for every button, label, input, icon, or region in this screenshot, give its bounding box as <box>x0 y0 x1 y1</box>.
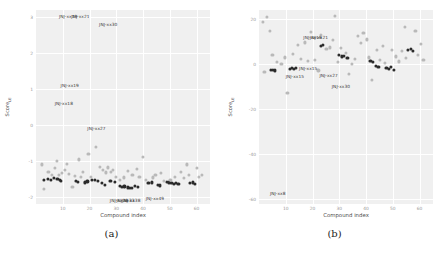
data-point <box>118 178 121 181</box>
grid-line-vertical <box>143 10 144 204</box>
data-point <box>377 65 380 68</box>
x-tick-label: 30 <box>114 206 120 211</box>
data-point <box>265 15 268 18</box>
x-tick-label: 10 <box>60 206 66 211</box>
data-point <box>42 187 45 190</box>
x-tick-label: 60 <box>417 206 423 211</box>
data-point <box>405 57 408 60</box>
data-point <box>322 44 325 47</box>
data-point <box>174 175 177 178</box>
grid-line-vertical <box>170 10 171 204</box>
data-point <box>42 178 45 181</box>
data-point <box>159 184 162 187</box>
y-tick-label: -40 <box>243 152 256 157</box>
data-point <box>356 35 359 38</box>
data-point <box>371 60 374 63</box>
data-point <box>303 41 306 44</box>
data-point <box>268 30 271 33</box>
data-point <box>286 91 289 94</box>
grid-line-vertical <box>339 10 340 204</box>
panel-a: 102030405060-2-10123JNJ-xx19JNJ-xx21JNJ-… <box>0 0 223 253</box>
data-point <box>292 52 295 55</box>
data-point <box>94 146 97 149</box>
data-point <box>112 169 115 172</box>
data-point <box>414 29 417 32</box>
y-tick-label: 0 <box>243 62 256 67</box>
data-point <box>71 185 74 188</box>
data-point <box>397 60 400 63</box>
caption-b: (b) <box>223 228 446 239</box>
data-point <box>262 20 265 23</box>
data-point <box>275 60 278 63</box>
x-tick-label: 20 <box>310 206 316 211</box>
data-point <box>344 51 347 54</box>
data-point <box>339 46 342 49</box>
data-point <box>381 44 384 47</box>
data-point <box>106 166 109 169</box>
data-point <box>365 38 368 41</box>
data-point <box>403 25 406 28</box>
data-point <box>68 172 71 175</box>
data-point <box>141 156 144 159</box>
data-point <box>76 180 79 183</box>
data-point <box>104 171 107 174</box>
caption-a: (a) <box>0 228 223 239</box>
x-axis-title-a: Compound index <box>36 212 210 218</box>
y-tick-label: 2 <box>20 51 33 56</box>
data-point <box>131 173 134 176</box>
y-tick-label: 1 <box>20 87 33 92</box>
data-point <box>328 46 331 49</box>
x-tick-label: 30 <box>337 206 343 211</box>
point-annotation-label: JNJ-xx27 <box>319 73 337 78</box>
data-point <box>40 163 43 166</box>
data-point <box>122 176 125 179</box>
x-tick-label: 20 <box>87 206 93 211</box>
point-annotation-label: JNJ-xx38 <box>122 197 140 202</box>
data-point <box>154 174 157 177</box>
data-point <box>359 41 362 44</box>
data-point <box>136 185 139 188</box>
data-point <box>103 183 106 186</box>
data-point <box>375 48 378 51</box>
data-point <box>195 166 198 169</box>
data-point <box>333 14 336 17</box>
point-annotation-label: JNJ-xx30 <box>99 21 117 26</box>
plot-area-b: 102030405060-60-40-20020JNJ-xx19JNJ-xx21… <box>259 10 433 204</box>
y-tick-label: -2 <box>20 194 33 199</box>
data-point <box>82 170 85 173</box>
data-point <box>331 39 334 42</box>
grid-line-vertical <box>420 10 421 204</box>
x-tick-label: 40 <box>140 206 146 211</box>
data-point <box>296 43 299 46</box>
data-point <box>263 71 266 74</box>
data-point <box>86 180 89 183</box>
point-annotation-label: JNJ-xx30 <box>332 83 350 88</box>
data-point <box>394 55 397 58</box>
x-tick-label: 50 <box>167 206 173 211</box>
data-point <box>273 69 276 72</box>
y-tick-label: -20 <box>243 107 256 112</box>
data-point <box>392 68 395 71</box>
data-point <box>422 58 425 61</box>
y-axis-title-main-b: Score <box>227 102 233 117</box>
data-point <box>160 172 163 175</box>
panel-b: 102030405060-60-40-20020JNJ-xx19JNJ-xx21… <box>223 0 446 253</box>
y-tick-label: -60 <box>243 197 256 202</box>
data-point <box>150 181 153 184</box>
x-tick-label: 60 <box>194 206 200 211</box>
data-point <box>135 167 138 170</box>
point-annotation-label: JNJ-xx19 <box>61 83 79 88</box>
data-point <box>362 31 365 34</box>
data-point <box>79 175 82 178</box>
point-annotation-label: JNJ-xx8 <box>270 190 286 195</box>
data-point <box>126 169 129 172</box>
point-annotation-label: JNJ-xx15 <box>299 65 317 70</box>
y-axis-title-sub-b: LE <box>231 98 235 102</box>
grid-line-vertical <box>286 10 287 204</box>
data-point <box>47 170 50 173</box>
data-point <box>300 57 303 60</box>
data-point <box>188 174 191 177</box>
data-point <box>65 162 68 165</box>
y-tick-label: -1 <box>20 158 33 163</box>
data-point <box>294 66 297 69</box>
